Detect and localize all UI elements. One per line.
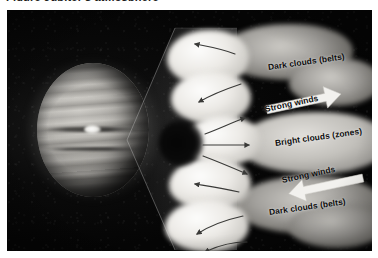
planet-globe [37,63,149,197]
bright-spot [84,125,101,134]
figure-root: Figure Jupiter's atmosphere [0,0,378,258]
planet-dark-band-upper [41,127,144,132]
jupiter-planet [37,63,149,197]
figure-image-plate: Dark clouds (belts) Strong winds Bright … [7,10,372,251]
clipped-caption: Figure Jupiter's atmosphere [6,0,366,1]
planet-dark-band-lower [41,147,144,151]
